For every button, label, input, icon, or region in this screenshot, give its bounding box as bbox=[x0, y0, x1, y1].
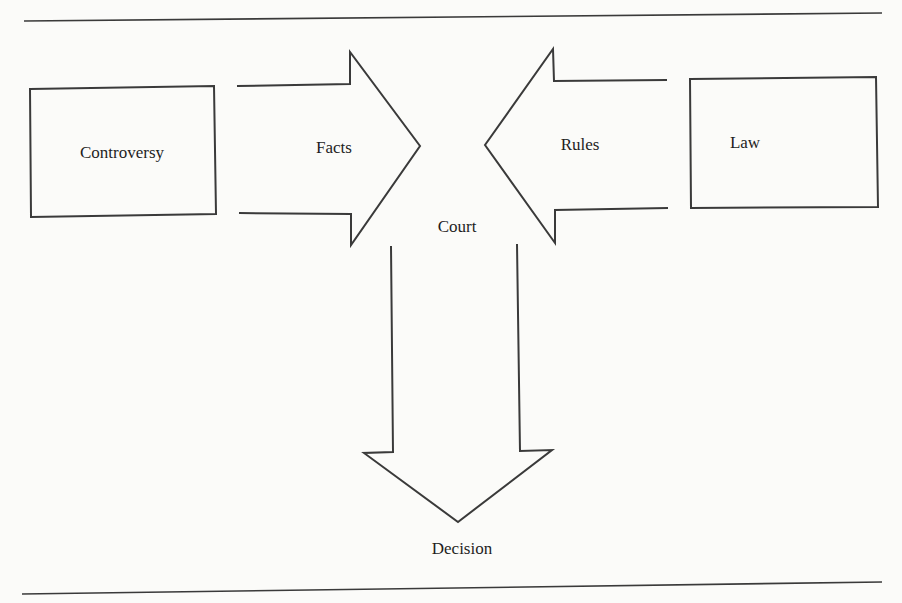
facts-label: Facts bbox=[316, 138, 352, 158]
bottom-rule bbox=[22, 582, 882, 594]
law-label: Law bbox=[730, 133, 760, 153]
court-label: Court bbox=[438, 217, 477, 237]
decision-label: Decision bbox=[432, 539, 492, 559]
diagram-canvas: Controversy Facts Rules Law Court Decisi… bbox=[0, 0, 902, 603]
rules-label: Rules bbox=[561, 135, 600, 155]
diagram-shapes bbox=[0, 0, 902, 603]
law-box bbox=[690, 77, 878, 208]
decision-arrow bbox=[364, 244, 552, 522]
controversy-label: Controversy bbox=[80, 143, 164, 163]
top-rule bbox=[24, 13, 882, 21]
